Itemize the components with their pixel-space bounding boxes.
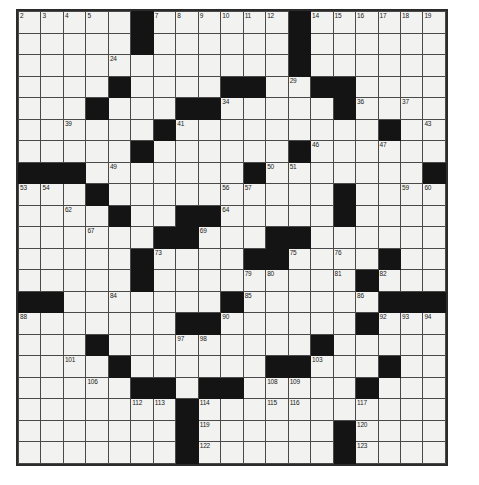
- crossword-cell[interactable]: [266, 205, 288, 227]
- crossword-cell[interactable]: [266, 334, 288, 356]
- crossword-cell[interactable]: [63, 248, 85, 270]
- crossword-cell[interactable]: [333, 291, 355, 313]
- crossword-cell[interactable]: 12: [266, 12, 288, 34]
- crossword-cell[interactable]: [131, 184, 153, 206]
- crossword-cell[interactable]: [63, 33, 85, 55]
- crossword-cell[interactable]: [333, 141, 355, 163]
- crossword-cell[interactable]: [198, 270, 220, 292]
- crossword-cell[interactable]: 43: [423, 119, 446, 141]
- crossword-cell[interactable]: [131, 55, 153, 77]
- crossword-cell[interactable]: [311, 55, 333, 77]
- crossword-cell[interactable]: [400, 141, 422, 163]
- crossword-cell[interactable]: [176, 184, 198, 206]
- crossword-cell[interactable]: [400, 248, 422, 270]
- crossword-cell[interactable]: 88: [19, 313, 41, 335]
- crossword-cell[interactable]: [41, 141, 63, 163]
- crossword-cell[interactable]: [266, 141, 288, 163]
- crossword-cell[interactable]: [288, 291, 310, 313]
- crossword-cell[interactable]: [333, 399, 355, 421]
- crossword-cell[interactable]: 98: [198, 334, 220, 356]
- crossword-cell[interactable]: [108, 313, 130, 335]
- crossword-cell[interactable]: [356, 55, 378, 77]
- crossword-cell[interactable]: [288, 119, 310, 141]
- crossword-cell[interactable]: [221, 162, 243, 184]
- crossword-cell[interactable]: [333, 55, 355, 77]
- crossword-cell[interactable]: [86, 399, 108, 421]
- crossword-cell[interactable]: [311, 184, 333, 206]
- crossword-cell[interactable]: [311, 291, 333, 313]
- crossword-cell[interactable]: 64: [221, 205, 243, 227]
- crossword-cell[interactable]: 106: [86, 377, 108, 399]
- crossword-cell[interactable]: 11: [243, 12, 265, 34]
- crossword-cell[interactable]: [19, 76, 41, 98]
- crossword-cell[interactable]: [153, 205, 175, 227]
- crossword-cell[interactable]: [108, 377, 130, 399]
- crossword-cell[interactable]: [198, 76, 220, 98]
- crossword-cell[interactable]: [153, 442, 175, 464]
- crossword-cell[interactable]: [19, 399, 41, 421]
- crossword-cell[interactable]: [153, 76, 175, 98]
- crossword-cell[interactable]: 14: [311, 12, 333, 34]
- crossword-cell[interactable]: [131, 442, 153, 464]
- crossword-cell[interactable]: [311, 33, 333, 55]
- crossword-cell[interactable]: [131, 227, 153, 249]
- crossword-cell[interactable]: 4: [63, 12, 85, 34]
- crossword-cell[interactable]: [63, 55, 85, 77]
- crossword-cell[interactable]: [266, 420, 288, 442]
- crossword-cell[interactable]: [400, 227, 422, 249]
- crossword-cell[interactable]: 5: [86, 12, 108, 34]
- crossword-cell[interactable]: 109: [288, 377, 310, 399]
- crossword-cell[interactable]: [153, 55, 175, 77]
- crossword-cell[interactable]: 15: [333, 12, 355, 34]
- crossword-cell[interactable]: [400, 55, 422, 77]
- crossword-cell[interactable]: 120: [356, 420, 378, 442]
- crossword-cell[interactable]: [153, 184, 175, 206]
- crossword-cell[interactable]: [86, 356, 108, 378]
- crossword-cell[interactable]: [131, 119, 153, 141]
- crossword-cell[interactable]: 114: [198, 399, 220, 421]
- crossword-cell[interactable]: [41, 442, 63, 464]
- crossword-cell[interactable]: [108, 33, 130, 55]
- crossword-cell[interactable]: [423, 248, 446, 270]
- crossword-cell[interactable]: [311, 205, 333, 227]
- crossword-cell[interactable]: [198, 55, 220, 77]
- crossword-cell[interactable]: [221, 227, 243, 249]
- crossword-cell[interactable]: [86, 76, 108, 98]
- crossword-cell[interactable]: [333, 313, 355, 335]
- crossword-cell[interactable]: [63, 420, 85, 442]
- crossword-cell[interactable]: [221, 420, 243, 442]
- crossword-cell[interactable]: 116: [288, 399, 310, 421]
- crossword-cell[interactable]: [423, 76, 446, 98]
- crossword-cell[interactable]: 50: [266, 162, 288, 184]
- crossword-cell[interactable]: [311, 119, 333, 141]
- crossword-cell[interactable]: [243, 442, 265, 464]
- crossword-cell[interactable]: [86, 313, 108, 335]
- crossword-cell[interactable]: [311, 270, 333, 292]
- crossword-cell[interactable]: [378, 205, 400, 227]
- crossword-cell[interactable]: 9: [198, 12, 220, 34]
- crossword-cell[interactable]: [176, 76, 198, 98]
- crossword-cell[interactable]: [108, 12, 130, 34]
- crossword-cell[interactable]: [356, 162, 378, 184]
- crossword-cell[interactable]: [176, 248, 198, 270]
- crossword-cell[interactable]: [86, 270, 108, 292]
- crossword-cell[interactable]: 7: [153, 12, 175, 34]
- crossword-cell[interactable]: [266, 442, 288, 464]
- crossword-cell[interactable]: [221, 334, 243, 356]
- crossword-cell[interactable]: [333, 356, 355, 378]
- crossword-cell[interactable]: [243, 313, 265, 335]
- crossword-cell[interactable]: [63, 399, 85, 421]
- crossword-cell[interactable]: [221, 399, 243, 421]
- crossword-cell[interactable]: [19, 420, 41, 442]
- crossword-cell[interactable]: [378, 227, 400, 249]
- crossword-cell[interactable]: [266, 98, 288, 120]
- crossword-cell[interactable]: [400, 119, 422, 141]
- crossword-cell[interactable]: [243, 334, 265, 356]
- crossword-cell[interactable]: [221, 33, 243, 55]
- crossword-cell[interactable]: [378, 442, 400, 464]
- crossword-cell[interactable]: [311, 420, 333, 442]
- crossword-cell[interactable]: [63, 98, 85, 120]
- crossword-cell[interactable]: [423, 55, 446, 77]
- crossword-cell[interactable]: 18: [400, 12, 422, 34]
- crossword-cell[interactable]: [63, 76, 85, 98]
